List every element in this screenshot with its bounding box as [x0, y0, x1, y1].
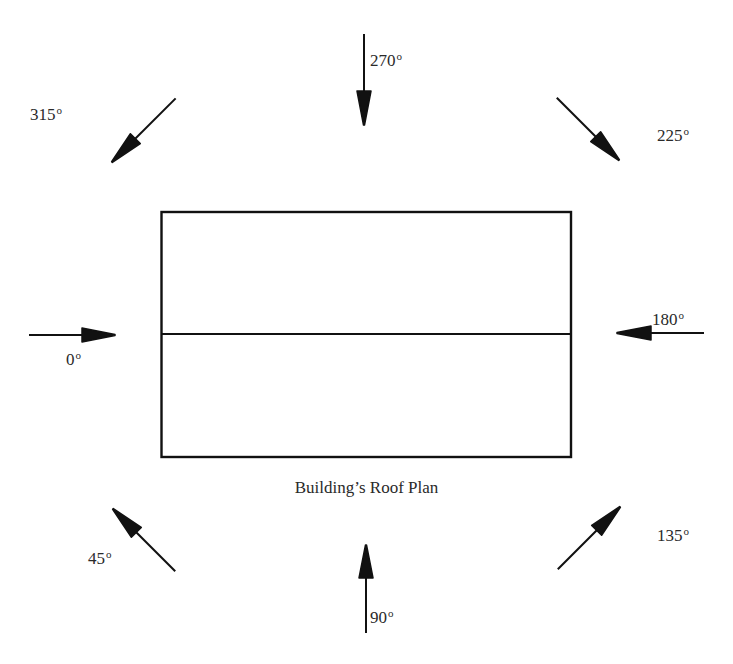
wind-label-180-value: 180 [652, 310, 678, 329]
wind-label-45: 45o [88, 549, 112, 567]
wind-label-135-value: 135 [657, 526, 683, 545]
wind-arrow-45-icon [108, 504, 180, 576]
wind-arrow-315-icon [107, 93, 181, 167]
degree-symbol: o [106, 548, 112, 560]
degree-symbol: o [679, 309, 685, 321]
roof-plan-diagram: 270o 315o 225o 180o 0o 45o 135o 90o Buil… [0, 0, 733, 664]
degree-symbol: o [397, 50, 403, 62]
wind-label-0: 0o [66, 350, 81, 368]
degree-symbol: o [76, 349, 82, 361]
degree-symbol: o [684, 125, 690, 137]
wind-arrow-225-icon [552, 93, 624, 165]
wind-arrow-270-icon [357, 34, 371, 125]
wind-label-225-value: 225 [657, 126, 683, 145]
wind-arrow-135-icon [553, 502, 625, 574]
wind-label-315-value: 315 [30, 105, 56, 124]
wind-label-90-value: 90 [370, 608, 387, 627]
degree-symbol: o [57, 104, 63, 116]
degree-symbol: o [388, 607, 394, 619]
wind-arrow-0-icon [29, 328, 115, 342]
wind-label-90: 90o [370, 608, 394, 626]
degree-symbol: o [684, 525, 690, 537]
wind-label-45-value: 45 [88, 549, 105, 568]
wind-label-0-value: 0 [66, 350, 75, 369]
wind-label-315: 315o [30, 105, 62, 123]
wind-label-270: 270o [370, 51, 402, 69]
roof-plan-caption: Building’s Roof Plan [0, 478, 733, 498]
wind-label-225: 225o [657, 126, 689, 144]
wind-label-135: 135o [657, 526, 689, 544]
wind-label-180: 180o [652, 310, 684, 328]
wind-label-270-value: 270 [370, 51, 396, 70]
